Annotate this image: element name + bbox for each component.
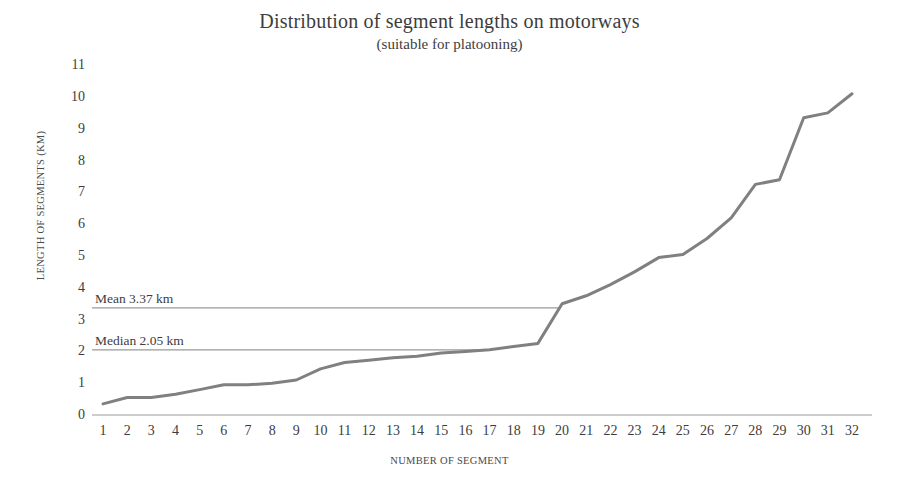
chart-container: Distribution of segment lengths on motor… [0,0,899,489]
data-series-line [103,94,852,404]
mean-annotation-label: Mean 3.37 km [95,291,173,306]
plot-area [0,0,899,489]
median-annotation-label: Median 2.05 km [95,333,184,348]
